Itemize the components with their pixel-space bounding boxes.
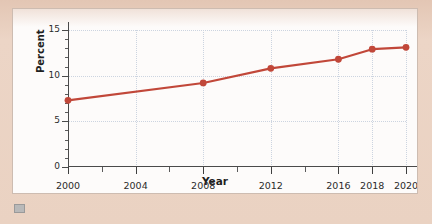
y-tick-label: 0: [36, 162, 60, 171]
thumbnail-artifact: [14, 204, 25, 213]
x-tick-label: 2004: [114, 181, 158, 191]
line-series: 2000: 7.32008: 9.22012: 10.82016: 11.820…: [68, 30, 406, 167]
series-line: [68, 47, 406, 100]
data-point-marker: 2008: 9.2: [200, 80, 207, 87]
x-tick-label: 2000: [46, 181, 90, 191]
x-tick-minor: [102, 167, 103, 172]
data-point-marker: 2000: 7.3: [65, 97, 72, 104]
chart-card: Percent Year 051015 20002004200820122016…: [12, 8, 418, 194]
x-tick-major: [68, 167, 69, 174]
x-tick-minor: [305, 167, 306, 172]
figure-root: Percent Year 051015 20002004200820122016…: [0, 0, 432, 224]
data-point-marker: 2018: 12.9: [369, 46, 376, 53]
x-tick-major: [338, 167, 339, 174]
x-tick-label: 2012: [249, 181, 293, 191]
y-tick-label: 10: [36, 71, 60, 80]
x-tick-major: [271, 167, 272, 174]
data-point-marker: 2016: 11.8: [335, 56, 342, 63]
y-tick-label: 15: [36, 25, 60, 34]
y-tick-label: 5: [36, 116, 60, 125]
plot-area: 051015 2000200420082012201620182020 2000…: [68, 30, 406, 167]
y-axis-title: Percent: [35, 29, 46, 73]
x-tick-major: [406, 167, 407, 174]
x-tick-minor: [237, 167, 238, 172]
x-tick-major: [372, 167, 373, 174]
x-tick-major: [203, 167, 204, 174]
x-tick-major: [136, 167, 137, 174]
data-point-marker: 2020: 13.1: [403, 44, 410, 51]
data-point-marker: 2012: 10.8: [267, 65, 274, 72]
card-top-shading: [13, 9, 417, 27]
x-tick-label: 2020: [384, 181, 418, 191]
x-tick-label: 2008: [181, 181, 225, 191]
x-tick-minor: [169, 167, 170, 172]
